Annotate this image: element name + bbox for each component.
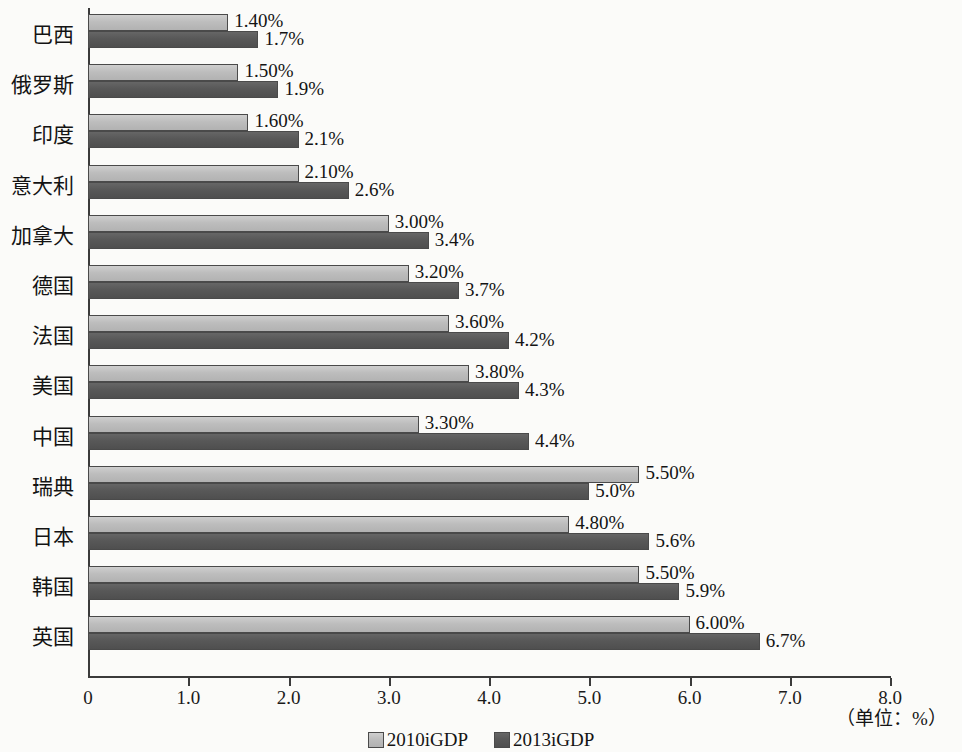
x-tick-label: 4.0 <box>477 687 501 709</box>
bar-series-2010 <box>88 315 449 332</box>
bar-series-2013 <box>88 382 519 399</box>
bar-series-2013 <box>88 31 258 48</box>
bar-value-label: 6.7% <box>760 632 806 649</box>
bar-value-label: 5.0% <box>589 482 635 499</box>
bar-value-label: 1.60% <box>248 112 303 129</box>
bar-value-label: 1.50% <box>238 62 293 79</box>
category-label: 英国 <box>0 620 74 650</box>
bar-value-label: 5.6% <box>649 532 695 549</box>
x-tick <box>188 678 190 686</box>
category-axis-labels: 巴西俄罗斯印度意大利加拿大德国法国美国中国瑞典日本韩国英国 <box>0 8 80 676</box>
bar-value-label: 1.9% <box>278 80 324 97</box>
bar-value-label: 4.4% <box>529 432 575 449</box>
x-tick-label: 0 <box>83 687 93 709</box>
chart-legend: 2010iGDP2013iGDP <box>0 729 962 751</box>
bar-series-2010 <box>88 265 409 282</box>
bar-value-label: 1.7% <box>258 30 304 47</box>
bar-group: 5.50%5.9% <box>88 566 890 600</box>
bar-value-label: 5.50% <box>639 564 694 581</box>
bar-value-label: 6.00% <box>690 614 745 631</box>
bar-series-2013 <box>88 533 649 550</box>
bar-value-label: 2.10% <box>299 163 354 180</box>
x-tick <box>389 678 391 686</box>
bar-value-label: 3.4% <box>429 231 475 248</box>
chart-page: 巴西俄罗斯印度意大利加拿大德国法国美国中国瑞典日本韩国英国 1.40%1.7%1… <box>0 0 962 752</box>
bar-group: 3.80%4.3% <box>88 365 890 399</box>
bar-series-2013 <box>88 81 278 98</box>
bar-group: 3.30%4.4% <box>88 416 890 450</box>
x-tick <box>890 678 892 686</box>
legend-item: 2013iGDP <box>494 729 594 751</box>
x-tick-label: 1.0 <box>176 687 200 709</box>
bar-series-2013 <box>88 182 349 199</box>
bar-series-2010 <box>88 516 569 533</box>
bar-series-2013 <box>88 633 760 650</box>
bar-series-2013 <box>88 232 429 249</box>
category-label: 日本 <box>0 520 74 550</box>
category-label: 韩国 <box>0 570 74 600</box>
category-label: 法国 <box>0 319 74 349</box>
bar-value-label: 4.3% <box>519 381 565 398</box>
x-tick-label: 5.0 <box>577 687 601 709</box>
legend-item: 2010iGDP <box>368 729 468 751</box>
bar-group: 4.80%5.6% <box>88 516 890 550</box>
x-tick-label: 3.0 <box>377 687 401 709</box>
x-tick-label: 7.0 <box>778 687 802 709</box>
bar-value-label: 5.50% <box>639 464 694 481</box>
bar-series-2010 <box>88 215 389 232</box>
x-tick <box>489 678 491 686</box>
bar-series-2013 <box>88 583 679 600</box>
legend-label: 2010iGDP <box>387 729 468 751</box>
bar-series-2010 <box>88 14 228 31</box>
bar-group: 1.60%2.1% <box>88 114 890 148</box>
category-label: 中国 <box>0 420 74 450</box>
bar-value-label: 4.2% <box>509 331 555 348</box>
bar-value-label: 3.60% <box>449 313 504 330</box>
bar-series-2013 <box>88 483 589 500</box>
bar-series-2013 <box>88 282 459 299</box>
bar-series-2010 <box>88 165 299 182</box>
bar-group: 6.00%6.7% <box>88 616 890 650</box>
light-gray-swatch <box>368 732 384 748</box>
x-tick <box>289 678 291 686</box>
bar-series-2013 <box>88 332 509 349</box>
bar-series-2010 <box>88 64 238 81</box>
bar-value-label: 3.30% <box>419 414 474 431</box>
bar-series-2010 <box>88 365 469 382</box>
bar-value-label: 3.7% <box>459 281 505 298</box>
bar-series-2010 <box>88 114 248 131</box>
bar-group: 1.40%1.7% <box>88 14 890 48</box>
x-tick-label: 6.0 <box>678 687 702 709</box>
x-tick-label: 2.0 <box>277 687 301 709</box>
bar-group: 3.00%3.4% <box>88 215 890 249</box>
bar-group: 3.20%3.7% <box>88 265 890 299</box>
bar-series-2010 <box>88 416 419 433</box>
bar-series-2010 <box>88 616 690 633</box>
bar-series-2013 <box>88 131 299 148</box>
plot-area: 1.40%1.7%1.50%1.9%1.60%2.1%2.10%2.6%3.00… <box>88 8 890 676</box>
category-label: 俄罗斯 <box>0 68 74 98</box>
x-tick <box>589 678 591 686</box>
bar-group: 5.50%5.0% <box>88 466 890 500</box>
bar-value-label: 1.40% <box>228 12 283 29</box>
category-label: 德国 <box>0 269 74 299</box>
bar-value-label: 3.80% <box>469 363 524 380</box>
bar-series-2010 <box>88 466 639 483</box>
bar-value-label: 2.1% <box>299 130 345 147</box>
bar-group: 2.10%2.6% <box>88 165 890 199</box>
dark-gray-swatch <box>494 732 510 748</box>
category-label: 印度 <box>0 118 74 148</box>
category-label: 加拿大 <box>0 219 74 249</box>
x-tick <box>790 678 792 686</box>
bar-value-label: 2.6% <box>349 181 395 198</box>
unit-note: （单位：%） <box>836 703 947 730</box>
category-label: 巴西 <box>0 18 74 48</box>
category-label: 美国 <box>0 369 74 399</box>
bar-series-2013 <box>88 433 529 450</box>
bar-group: 3.60%4.2% <box>88 315 890 349</box>
category-label: 意大利 <box>0 169 74 199</box>
legend-label: 2013iGDP <box>513 729 594 751</box>
bar-value-label: 4.80% <box>569 514 624 531</box>
bar-value-label: 5.9% <box>679 582 725 599</box>
bar-group: 1.50%1.9% <box>88 64 890 98</box>
